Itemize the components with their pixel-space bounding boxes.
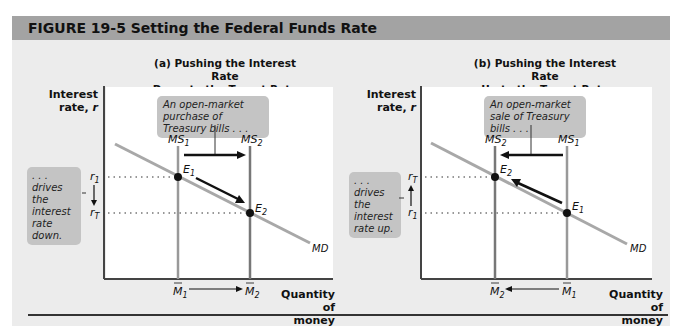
svg-text:MS1: MS1 xyxy=(558,133,580,148)
panel-b-md-curve xyxy=(431,143,627,244)
svg-text:MS2: MS2 xyxy=(485,133,507,148)
svg-text:MD: MD xyxy=(630,243,647,254)
panel-b-point-e1 xyxy=(563,209,571,217)
svg-text:M1: M1 xyxy=(562,285,577,300)
svg-text:E1: E1 xyxy=(572,200,584,215)
svg-text:M2: M2 xyxy=(490,285,505,300)
panel-b-point-e2 xyxy=(491,173,499,181)
svg-text:E2: E2 xyxy=(500,163,512,178)
panel-b-graph: MS2 MS1 E2 E1 MD rT r1 M2 M1 xyxy=(0,0,683,326)
bottom-rule xyxy=(28,314,668,316)
panel-b-shift-arrow-icon xyxy=(500,151,509,159)
svg-text:r1: r1 xyxy=(408,206,418,221)
svg-text:rT: rT xyxy=(408,170,419,185)
